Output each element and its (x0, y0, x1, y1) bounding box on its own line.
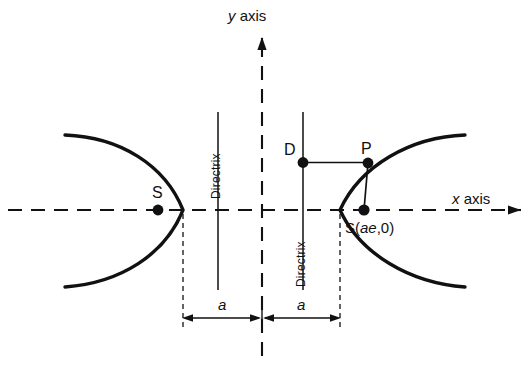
dimension-a-left-arrowhead-end (250, 314, 261, 322)
dimension-a-left-label: a (218, 297, 226, 312)
y-axis-label-italic: y (228, 7, 236, 24)
x-axis (8, 205, 521, 214)
focus-left-dot (153, 205, 164, 216)
point-p-dot (363, 158, 374, 169)
x-axis-label: x axis (452, 191, 490, 206)
dimension-a-left (182, 314, 261, 322)
x-axis-label-italic: x (452, 190, 460, 207)
x-axis-label-rest: axis (460, 190, 491, 207)
focus-right-label: S(ae,0) (345, 220, 394, 235)
focus-right-label-italic: ae (360, 219, 377, 236)
directrix-left-label: Directrix (210, 153, 222, 199)
x-axis-arrowhead (508, 205, 521, 214)
directrix-right-label: Directrix (295, 241, 307, 287)
segment-p-to-focus (364, 163, 368, 210)
focus-right-dot (358, 204, 369, 215)
dimension-a-right-arrowhead-start (263, 314, 274, 322)
y-axis-label-rest: axis (236, 7, 267, 24)
dimension-a-right-label: a (297, 297, 305, 312)
point-d-label: D (284, 142, 296, 158)
y-axis-arrowhead (257, 37, 266, 50)
focus-right-label-suffix: ,0) (377, 219, 395, 236)
y-axis (257, 37, 266, 356)
dimension-a-right (263, 314, 341, 322)
y-axis-label: y axis (228, 8, 266, 23)
point-d-dot (298, 157, 309, 168)
point-p-label: P (361, 141, 372, 157)
focus-left-label: S (152, 185, 163, 201)
diagram-canvas: y axis x axis S S(ae,0) D P Directrix Di… (0, 0, 530, 365)
focus-right-label-prefix: S( (345, 219, 360, 236)
hyperbola-figure (0, 0, 530, 365)
